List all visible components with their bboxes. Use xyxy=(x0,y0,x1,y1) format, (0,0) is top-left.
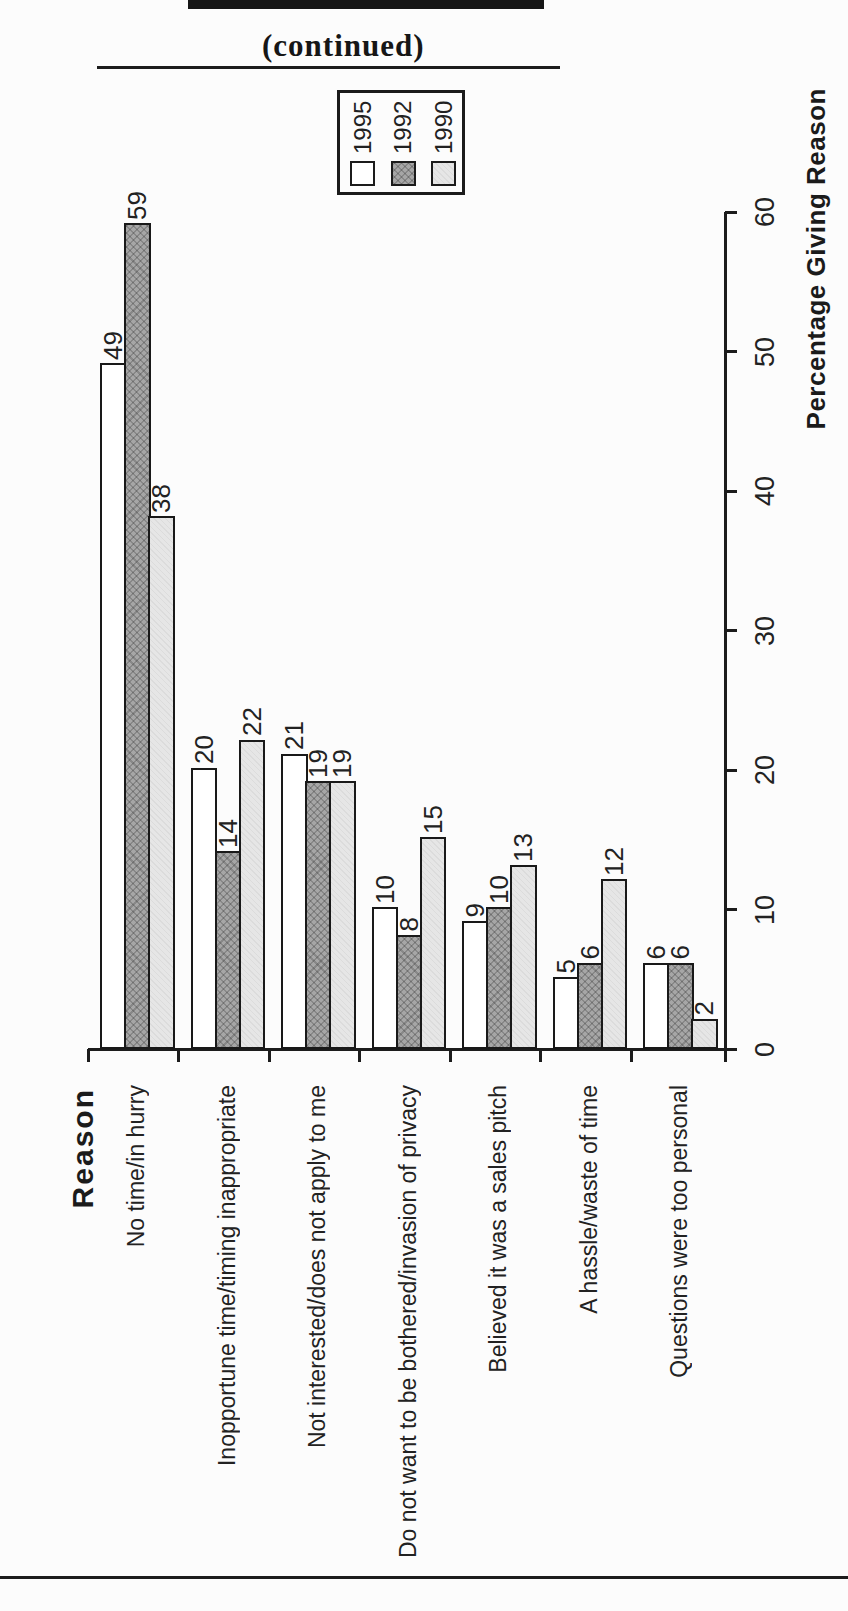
bar-1992 xyxy=(215,851,242,1049)
bar-1990 xyxy=(420,837,447,1049)
value-axis-tick xyxy=(725,350,737,353)
page-bottom-rule xyxy=(0,1576,848,1579)
value-axis-tick xyxy=(725,908,737,911)
bar-1992 xyxy=(486,907,513,1049)
bar-value-label: 38 xyxy=(146,484,176,513)
value-tick-label: 40 xyxy=(750,459,780,523)
bar-value-label: 20 xyxy=(189,735,219,764)
bar-1990 xyxy=(691,1019,718,1049)
category-label: No time/in hurry xyxy=(121,1085,151,1247)
bar-1995 xyxy=(643,963,670,1049)
category-label: Believed it was a sales pitch xyxy=(483,1085,513,1373)
category-label: Inopportune time/timing inappropriate xyxy=(212,1085,242,1466)
bar-value-label: 21 xyxy=(279,721,309,750)
value-tick-label: 0 xyxy=(750,1017,780,1081)
bar-1990 xyxy=(148,516,175,1049)
value-tick-label: 20 xyxy=(750,738,780,802)
bar-1992 xyxy=(305,781,332,1049)
bar-1995 xyxy=(191,768,218,1050)
bar-value-label: 10 xyxy=(370,875,400,904)
bar-1992 xyxy=(396,935,423,1049)
bar-value-label: 6 xyxy=(665,945,695,959)
bar-value-label: 19 xyxy=(327,749,357,778)
category-axis-tick xyxy=(268,1049,271,1062)
bar-chart: 0102030405060495938No time/in hurry20142… xyxy=(0,0,848,1611)
category-label: A hassle/waste of time xyxy=(574,1085,604,1314)
category-axis-tick xyxy=(449,1049,452,1062)
bar-1992 xyxy=(124,223,151,1049)
bar-1995 xyxy=(100,363,127,1049)
value-axis-tick xyxy=(725,211,737,214)
bar-1995 xyxy=(462,921,489,1049)
category-axis-tick xyxy=(539,1049,542,1062)
category-axis-tick xyxy=(630,1049,633,1062)
bar-1992 xyxy=(577,963,604,1049)
value-tick-label: 60 xyxy=(750,180,780,244)
bar-1990 xyxy=(329,781,356,1049)
value-tick-label: 30 xyxy=(750,599,780,663)
scanned-book-page: (continued) 199519921990 010203040506049… xyxy=(0,0,848,1611)
bar-value-label: 12 xyxy=(599,847,629,876)
category-label: Do not want to be bothered/invasion of p… xyxy=(393,1085,423,1558)
value-axis-tick xyxy=(725,490,737,493)
value-axis-tick xyxy=(725,629,737,632)
bar-value-label: 15 xyxy=(418,805,448,834)
bar-1990 xyxy=(510,865,537,1049)
bar-1990 xyxy=(601,879,628,1049)
bar-value-label: 2 xyxy=(689,1001,719,1015)
value-axis-line xyxy=(724,212,727,1062)
value-axis-tick xyxy=(725,769,737,772)
category-axis-tick xyxy=(358,1049,361,1062)
bar-value-label: 13 xyxy=(508,833,538,862)
bar-1990 xyxy=(239,740,266,1049)
bar-value-label: 22 xyxy=(237,707,267,736)
category-axis-tick xyxy=(87,1049,90,1062)
category-label: Questions were too personal xyxy=(664,1085,694,1378)
value-axis-title: Percentage Giving Reason xyxy=(801,88,832,429)
bar-value-label: 59 xyxy=(122,191,152,220)
value-tick-label: 50 xyxy=(750,320,780,384)
category-axis-tick xyxy=(177,1049,180,1062)
bar-1995 xyxy=(553,977,580,1049)
category-axis-title: Reason xyxy=(66,1088,100,1208)
category-label: Not interested/does not apply to me xyxy=(302,1085,332,1448)
bar-1995 xyxy=(281,754,308,1049)
value-tick-label: 10 xyxy=(750,878,780,942)
